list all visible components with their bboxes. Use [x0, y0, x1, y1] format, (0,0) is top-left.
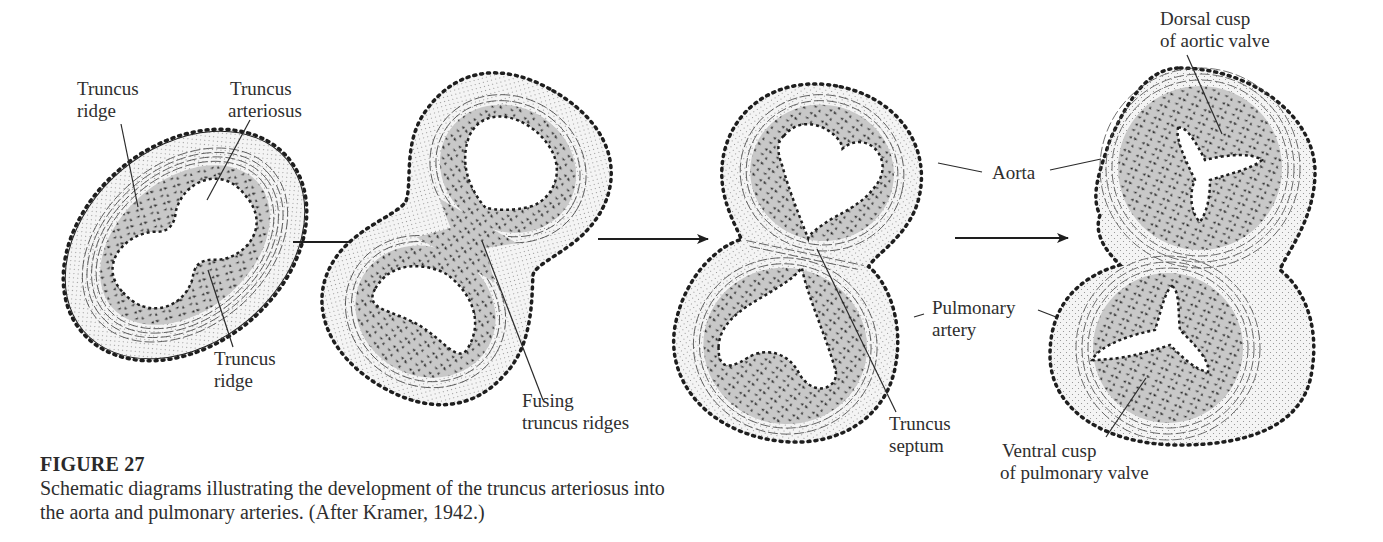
label-line: Truncus	[214, 348, 276, 370]
label-line: artery	[932, 319, 1015, 341]
label-pulmonary-artery: Pulmonary artery	[932, 297, 1015, 341]
label-line: ridge	[214, 370, 276, 392]
caption-text: Schematic diagrams illustrating the deve…	[40, 476, 1040, 524]
label-fusing-truncus-ridges: Fusing truncus ridges	[522, 390, 629, 434]
stage-1-truncus	[17, 82, 352, 409]
label-line: truncus ridges	[522, 412, 629, 434]
label-line: Fusing	[522, 390, 629, 412]
label-truncus-ridge-upper: Truncus ridge	[77, 78, 139, 122]
stage-4-vessels	[1050, 68, 1315, 445]
caption-line: the aorta and pulmonary arteries. (After…	[40, 500, 1040, 524]
label-truncus-septum: Truncus septum	[889, 413, 951, 457]
label-line: Truncus	[77, 78, 139, 100]
label-line: ridge	[77, 100, 139, 122]
label-truncus-arteriosus: Truncus arteriosus	[228, 78, 302, 122]
label-line: Truncus	[889, 413, 951, 435]
figure-caption: FIGURE 27 Schematic diagrams illustratin…	[40, 452, 1040, 524]
label-line: of aortic valve	[1160, 30, 1270, 52]
label-aorta: Aorta	[992, 162, 1035, 184]
leader-aorta-right	[1050, 159, 1101, 170]
leader-aorta-left	[938, 163, 982, 172]
stage-3-truncus	[656, 63, 950, 462]
leader-pulmonary-right	[1038, 310, 1056, 317]
label-line: Pulmonary	[932, 297, 1015, 319]
stage-2-truncus	[291, 38, 642, 438]
label-line: Truncus	[228, 78, 302, 100]
caption-line: Schematic diagrams illustrating the deve…	[40, 476, 1040, 500]
label-dorsal-cusp-aortic-valve: Dorsal cusp of aortic valve	[1160, 8, 1270, 52]
label-line: arteriosus	[228, 100, 302, 122]
label-truncus-ridge-lower: Truncus ridge	[214, 348, 276, 392]
label-line: Dorsal cusp	[1160, 8, 1270, 30]
leader-pulmonary-left	[914, 314, 924, 317]
figure-number: FIGURE 27	[40, 452, 1040, 476]
label-line: Aorta	[992, 162, 1035, 184]
